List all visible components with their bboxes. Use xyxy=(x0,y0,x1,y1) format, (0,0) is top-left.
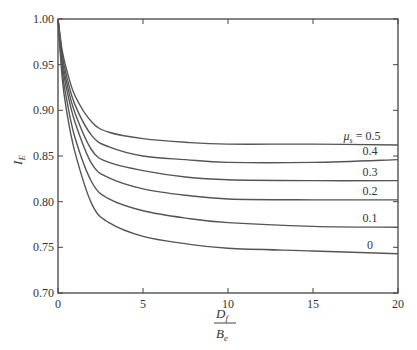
curve-mu-0.2 xyxy=(58,19,398,200)
curve-label: 0.3 xyxy=(363,165,378,179)
curve-mu-0.3 xyxy=(58,19,398,181)
x-tick-label: 0 xyxy=(55,297,61,311)
x-tick-label: 20 xyxy=(392,297,404,311)
curve-label: μs = 0.5 xyxy=(343,129,381,145)
y-tick-label: 0.85 xyxy=(33,149,54,163)
curve-label: 0 xyxy=(367,238,373,252)
y-tick-label: 1.00 xyxy=(33,12,54,26)
curve-label: 0.2 xyxy=(363,184,378,198)
y-tick-label: 0.95 xyxy=(33,58,54,72)
chart: 051015200.700.750.800.850.900.951.00 μs … xyxy=(0,0,417,350)
y-tick-label: 0.90 xyxy=(33,103,54,117)
y-axis-label: IE xyxy=(10,155,27,166)
curve-labels: μs = 0.50.40.30.20.10 xyxy=(343,129,381,252)
curve-label: 0.4 xyxy=(363,144,378,158)
svg-text:Be: Be xyxy=(216,326,228,343)
x-tick-label: 5 xyxy=(140,297,146,311)
y-tick-label: 0.75 xyxy=(33,240,54,254)
y-tick-label: 0.70 xyxy=(33,286,54,300)
x-tick-label: 15 xyxy=(307,297,319,311)
x-axis-label: Df Be xyxy=(214,306,236,343)
y-tick-label: 0.80 xyxy=(33,195,54,209)
curve-mu-0.1 xyxy=(58,19,398,227)
curve-label: 0.1 xyxy=(363,211,378,225)
curve-mu-0.5 xyxy=(58,19,398,145)
